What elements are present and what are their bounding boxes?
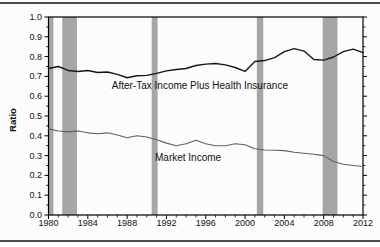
- y-tick-label: 0.7: [29, 71, 42, 81]
- recession-band: [323, 17, 338, 215]
- x-tick-label: 1988: [117, 218, 137, 228]
- x-tick-label: 2000: [235, 218, 255, 228]
- recession-band: [49, 17, 54, 215]
- market-income-label: Market Income: [155, 152, 222, 163]
- x-tick-label: 1992: [156, 218, 176, 228]
- recession-band: [62, 17, 77, 215]
- y-tick-label: 0.4: [29, 131, 42, 141]
- after-tax-income-plus-health-insurance-line: [49, 49, 364, 78]
- ratio-line-chart: 0.00.10.20.30.40.50.60.70.80.91.01980198…: [0, 0, 380, 247]
- x-tick-label: 1996: [196, 218, 216, 228]
- y-tick-label: 0.5: [29, 111, 42, 121]
- x-tick-label: 1980: [38, 218, 58, 228]
- after-tax-income-plus-health-insurance-label: After-Tax Income Plus Health Insurance: [112, 80, 289, 91]
- y-tick-label: 0.2: [29, 170, 42, 180]
- y-tick-label: 0.9: [29, 32, 42, 42]
- x-tick-label: 2012: [353, 218, 373, 228]
- x-tick-label: 2004: [274, 218, 294, 228]
- figure-page: 0.00.10.20.30.40.50.60.70.80.91.01980198…: [0, 0, 380, 247]
- y-tick-label: 1.0: [29, 12, 42, 22]
- recession-band: [152, 17, 158, 215]
- y-tick-label: 0.1: [29, 190, 42, 200]
- y-tick-label: 0.8: [29, 52, 42, 62]
- y-axis-title: Ratio: [7, 100, 19, 140]
- x-tick-label: 2008: [314, 218, 334, 228]
- x-tick-label: 1984: [78, 218, 98, 228]
- plot-frame: [49, 17, 364, 215]
- figure-bottom-rule: [0, 240, 380, 242]
- recession-band: [257, 17, 263, 215]
- y-tick-label: 0.6: [29, 91, 42, 101]
- y-tick-label: 0.3: [29, 151, 42, 161]
